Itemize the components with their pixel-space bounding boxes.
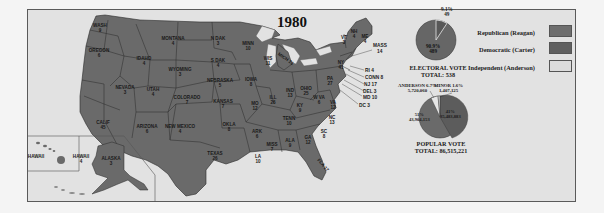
legend-label-republican: Republican (Reagan) [477,29,535,36]
electoral-dem-votes: 49 [441,12,453,17]
legend-swatch-democratic [549,42,572,54]
popular-dem-label: 41% 35,483,883 [440,110,461,120]
minor-label: MINOR 1.6% 1,407,125 [434,83,463,93]
anderson-votes: 5,720,060 [398,88,437,93]
popular-dem-votes: 35,483,883 [440,115,461,120]
legend-swatch-independent [549,60,572,72]
electoral-rep-label: 90.9% 489 [426,44,440,55]
legend-label-independent: Independent (Anderson) [468,64,535,71]
svg-text:LA10: LA10 [255,154,262,164]
electoral-dem-label: 9.1% 49 [441,7,453,18]
svg-text:HAWAII4: HAWAII4 [73,154,89,164]
svg-text:MASS: MASS [373,43,388,48]
legend-swatch-republican [549,25,572,37]
popular-rep-label: 51% 43,904,153 [409,113,430,123]
svg-text:MD 10: MD 10 [363,95,377,100]
electoral-vote-total: TOTAL: 538 [403,72,473,79]
svg-text:HAWAII: HAWAII [28,154,44,159]
map-title: 1980 [277,14,307,31]
svg-text:NJ 17: NJ 17 [364,82,377,87]
electoral-rep-votes: 489 [426,49,440,54]
electoral-vote-caption: ELECTORAL VOTE TOTAL: 538 [403,65,473,78]
hawaii-islands [36,142,65,164]
minor-votes: 1,407,125 [434,88,463,93]
svg-text:14: 14 [377,49,383,54]
svg-text:NC13: NC13 [329,115,336,125]
popular-vote-caption: POPULAR VOTE TOTAL: 86,515,221 [403,141,479,154]
popular-rep-votes: 43,904,153 [409,118,430,123]
legend-label-democratic: Democratic (Carter) [479,46,535,53]
svg-text:CONN 8: CONN 8 [365,75,383,80]
anderson-label: ANDERSON 6.7% 5,720,060 [398,83,437,93]
svg-text:SC8: SC8 [321,129,328,139]
svg-text:DEL 3: DEL 3 [363,89,377,94]
svg-text:NY41: NY41 [338,60,344,70]
svg-text:DC 3: DC 3 [359,103,370,108]
svg-text:RI 4: RI 4 [365,68,374,73]
aleutian-islands [54,186,85,195]
popular-vote-total: TOTAL: 86,515,221 [403,148,479,155]
